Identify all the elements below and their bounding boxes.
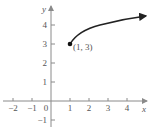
x-tick-labels: −2 −1 0 1 2 3 4: [8, 103, 130, 113]
x-tick-label: 0: [44, 103, 49, 113]
curve-line: [70, 16, 146, 44]
x-axis-label: x: [141, 104, 146, 114]
y-tick-label: −1: [37, 115, 47, 125]
chart: −2 −1 0 1 2 3 4 4 3 2 1 −1 y x (1, 3): [0, 0, 150, 129]
x-tick-label: 2: [87, 103, 92, 113]
y-tick-label: 2: [43, 58, 48, 68]
y-tick-label: 4: [43, 20, 48, 30]
y-axis-label: y: [41, 4, 46, 14]
x-tick-label: −1: [27, 103, 37, 113]
x-tick-label: 1: [68, 103, 73, 113]
x-tick-label: 4: [125, 103, 130, 113]
start-point-marker: [68, 42, 73, 47]
y-tick-label: 1: [43, 77, 48, 87]
x-tick-label: 3: [106, 103, 111, 113]
y-tick-label: 3: [43, 39, 48, 49]
y-ticks: [51, 25, 55, 120]
point-annotation: (1, 3): [73, 42, 93, 52]
x-tick-label: −2: [8, 103, 18, 113]
